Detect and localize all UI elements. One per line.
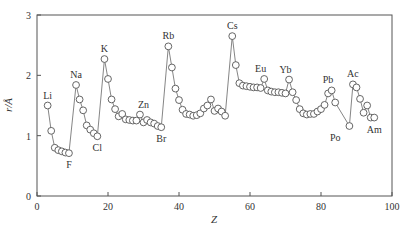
data-point [165, 43, 172, 50]
element-label: K [101, 43, 109, 54]
data-point [80, 107, 87, 114]
data-point [229, 33, 236, 40]
data-point [66, 150, 73, 157]
element-label: Pb [323, 74, 334, 85]
element-label: Rb [163, 30, 175, 41]
x-tick-label: 80 [316, 201, 326, 212]
data-point [112, 106, 119, 113]
element-label: Cl [93, 142, 103, 153]
y-axis-label: r/Å [2, 98, 14, 112]
data-point [158, 124, 165, 131]
data-point [172, 85, 179, 92]
data-point [169, 64, 176, 71]
data-point [261, 76, 268, 83]
data-point [101, 56, 108, 63]
data-point [44, 102, 51, 109]
x-tick-label: 20 [103, 201, 113, 212]
data-point [286, 76, 293, 83]
x-tick-label: 40 [174, 201, 184, 212]
data-point [48, 127, 55, 134]
y-tick-label: 0 [26, 191, 31, 202]
element-label: F [66, 159, 72, 170]
plot-border [37, 15, 392, 196]
data-point [176, 97, 183, 104]
x-tick-label: 100 [385, 201, 400, 212]
element-label: Yb [279, 64, 291, 75]
element-label: Na [70, 69, 82, 80]
data-point [282, 90, 289, 97]
plot-frame [37, 15, 392, 196]
data-point [76, 96, 83, 103]
y-tick-label: 1 [26, 131, 31, 142]
data-point [137, 111, 144, 118]
data-point [73, 82, 80, 89]
chart-svg: 0204060801000123 LiFNaClKZnBrRbCsEuYbPbP… [0, 0, 406, 233]
x-tick-label: 60 [245, 201, 255, 212]
x-axis-label: Z [211, 213, 218, 225]
data-point [257, 85, 264, 92]
element-label: Eu [255, 63, 266, 74]
y-tick-label: 2 [26, 70, 31, 81]
data-point [371, 114, 378, 121]
data-point [332, 99, 339, 106]
data-point [289, 89, 296, 96]
element-label: Br [156, 133, 167, 144]
element-label: Li [43, 90, 52, 101]
data-point [353, 84, 360, 91]
data-point [105, 76, 112, 83]
data-point [360, 109, 367, 116]
data-point [208, 96, 215, 103]
y-tick-label: 3 [26, 10, 31, 21]
data-point [328, 87, 335, 94]
element-label: Ac [347, 68, 359, 79]
radius-vs-z-chart: 0204060801000123 LiFNaClKZnBrRbCsEuYbPbP… [0, 0, 406, 233]
element-label: Po [330, 132, 341, 143]
data-point [364, 102, 371, 109]
element-label: Zn [138, 99, 149, 110]
data-point [222, 112, 229, 119]
element-label: Am [367, 124, 382, 135]
data-point [346, 123, 353, 130]
data-point [108, 96, 115, 103]
data-point [321, 101, 328, 108]
data-markers [44, 33, 377, 157]
element-label: Cs [227, 20, 238, 31]
data-point [357, 95, 364, 102]
x-tick-label: 0 [35, 201, 40, 212]
data-point [232, 62, 239, 69]
data-point [293, 97, 300, 104]
data-point [94, 133, 101, 140]
